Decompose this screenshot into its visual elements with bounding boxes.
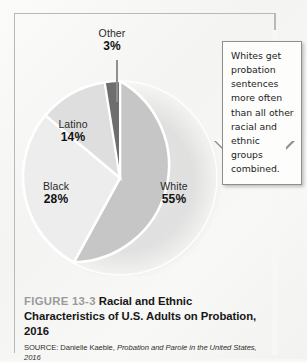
pie-label-latino-name: Latino bbox=[44, 118, 102, 130]
figure-source-prefix: SOURCE: Danielle Kaeble, bbox=[24, 343, 115, 352]
pie-label-other-percent: 3% bbox=[84, 39, 140, 53]
figure-number: FIGURE 13-3 bbox=[24, 295, 96, 307]
callout-box: Whites get probation sentences more ofte… bbox=[222, 41, 302, 185]
pie-label-black-percent: 28% bbox=[28, 192, 84, 206]
callout-text: Whites get probation sentences more ofte… bbox=[231, 49, 294, 176]
pie-label-latino: Latino 14% bbox=[44, 118, 102, 145]
callout-fold-corner-inner bbox=[286, 140, 293, 147]
pie-label-black: Black 28% bbox=[28, 180, 84, 207]
figure-source: SOURCE: Danielle Kaeble, Probation and P… bbox=[24, 343, 274, 362]
pie-label-white-percent: 55% bbox=[146, 192, 202, 206]
pie-label-white: White 55% bbox=[146, 180, 202, 207]
pie-label-other: Other 3% bbox=[84, 27, 140, 54]
pie-label-latino-percent: 14% bbox=[44, 130, 102, 144]
figure-caption: FIGURE 13-3 Racial and Ethnic Characteri… bbox=[24, 294, 274, 362]
pie-chart: Other 3% Latino 14% Black 28% White 55% … bbox=[0, 0, 307, 290]
figure-caption-title: FIGURE 13-3 Racial and Ethnic Characteri… bbox=[24, 294, 274, 339]
pie-label-other-name: Other bbox=[84, 27, 140, 39]
pie-label-white-name: White bbox=[146, 180, 202, 192]
callout-pointer-inner bbox=[215, 140, 222, 147]
other-label-leader-line bbox=[116, 60, 118, 102]
pie-chart-svg bbox=[18, 76, 223, 276]
pie-label-black-name: Black bbox=[28, 180, 84, 192]
